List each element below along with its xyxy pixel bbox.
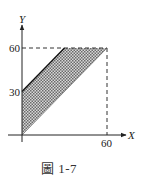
y-tick-30-label: 30 [9,86,21,98]
y-axis-label: Y [19,13,27,25]
figure-canvas: Y X 60 30 60 [0,0,144,181]
x-axis-label: X [127,129,136,141]
x-tick-60-label: 60 [101,137,113,149]
y-tick-60-label: 60 [9,42,21,54]
figure-caption: 圖 1-7 [41,158,77,177]
